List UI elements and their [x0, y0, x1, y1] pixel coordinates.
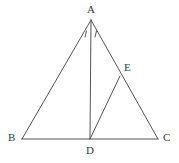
- vertex-label-a: A: [87, 4, 95, 15]
- vertex-label-e: E: [124, 62, 131, 73]
- segment-de: [90, 76, 120, 139]
- segments-group: [22, 20, 158, 139]
- vertex-label-b: B: [8, 132, 15, 143]
- geometry-figure: A B C D E: [0, 0, 179, 163]
- angle-mark-left: [85, 31, 87, 37]
- segment-ad: [90, 20, 91, 139]
- segment-ab: [22, 20, 91, 139]
- vertex-label-d: D: [86, 145, 94, 156]
- vertex-label-c: C: [163, 132, 170, 143]
- segment-ac: [91, 20, 158, 139]
- geometry-canvas: [0, 0, 179, 163]
- angle-mark-right: [95, 31, 97, 37]
